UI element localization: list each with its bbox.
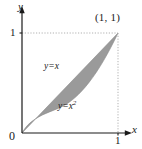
shaded-region-between-curves bbox=[22, 33, 118, 133]
y-axis-tick-label-1: 1 bbox=[10, 27, 16, 38]
x-axis-arrowhead-icon bbox=[125, 130, 132, 135]
x-axis-tick-label-1: 1 bbox=[115, 135, 121, 146]
curve-label-parabola-exponent: 2 bbox=[73, 99, 77, 107]
x-axis-label: x bbox=[132, 124, 137, 135]
figure-container: y x 1 1 0 (1, 1) y=x y=x2 bbox=[0, 0, 142, 149]
curve-label-y-equals-x-squared: y=x2 bbox=[58, 102, 76, 112]
graph-canvas bbox=[0, 0, 142, 149]
y-axis-label: y bbox=[18, 1, 23, 12]
curve-label-y-equals-x: y=x bbox=[44, 62, 59, 72]
point-label-one-one: (1, 1) bbox=[95, 12, 120, 23]
origin-label: 0 bbox=[9, 130, 15, 142]
curve-label-parabola-base: y=x bbox=[58, 101, 73, 111]
